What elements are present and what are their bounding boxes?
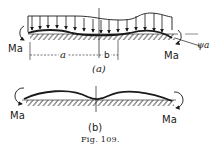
moment-label-right: Ma xyxy=(164,50,179,61)
figure-109: Ma Ma ψa a a b b (a) Ma Ma (b) Fig. 109. xyxy=(0,0,216,151)
panel-a: Ma Ma ψa a a b b (a) xyxy=(8,8,209,74)
dim-a-label: a xyxy=(60,49,66,60)
panel-b-label: (b) xyxy=(88,122,102,133)
moment-arc-right xyxy=(176,30,181,44)
beam-b xyxy=(24,91,172,101)
panel-b: Ma Ma (b) xyxy=(10,86,183,133)
panel-a-label: (a) xyxy=(92,63,106,74)
moment-label-left-b: Ma xyxy=(10,110,25,121)
moment-label-left: Ma xyxy=(8,43,23,54)
figure-caption: Fig. 109. xyxy=(81,135,120,144)
dim-b-label: b xyxy=(104,50,110,60)
moment-arc-left-b xyxy=(15,88,24,104)
moment-arc-left xyxy=(20,26,24,40)
load-envelope xyxy=(28,13,172,30)
moment-label-right-b: Ma xyxy=(162,114,177,125)
angle-label: ψa xyxy=(197,40,209,50)
